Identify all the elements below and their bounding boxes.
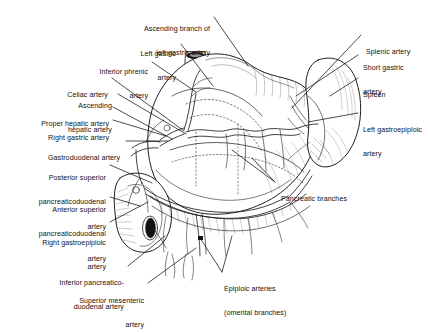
leader-pancreatic-branches-b xyxy=(252,158,275,182)
leader-short-gastric-artery xyxy=(296,55,358,96)
label-line: artery xyxy=(363,150,428,158)
label-superior-mesenteric-artery: Superior mesenteric artery xyxy=(56,280,144,333)
leader-left-gastroepiploic xyxy=(308,113,358,122)
leader-pancreatic-branches-a xyxy=(232,150,275,182)
label-line: Pancreatic branches xyxy=(281,195,373,203)
label-line: Short gastric xyxy=(363,64,425,72)
label-pancreatic-branches: Pancreatic branches xyxy=(281,178,373,219)
leader-splenic-artery xyxy=(292,35,361,108)
label-line: Anterior superior xyxy=(22,206,106,214)
leader-right-gastroepiploic xyxy=(110,202,148,222)
label-line: Superior mesenteric xyxy=(56,297,144,305)
label-line: Ascending branch of xyxy=(88,25,210,33)
leader-superior-mesenteric xyxy=(148,248,196,283)
leader-epiploic-arteries-b xyxy=(222,236,232,272)
label-line: Spleen xyxy=(363,91,419,99)
label-line: Left gastroepiploic xyxy=(363,126,428,134)
label-line: (omental branches) xyxy=(224,309,316,317)
leader-right-gastric-artery xyxy=(113,120,166,136)
label-epiploic-arteries: Epiploic arteries (omental branches) xyxy=(224,268,316,333)
label-line: Right gastroepiploic xyxy=(28,239,106,247)
label-line: Posterior superior xyxy=(22,174,106,182)
leader-epiploic-arteries-a xyxy=(200,238,222,272)
leader-spleen xyxy=(330,78,358,96)
label-line: Epiploic arteries xyxy=(224,285,316,293)
leader-ascending-branch-left-gastric xyxy=(214,17,248,66)
leader-anterior-superior-pancreaticoduodenal xyxy=(110,197,140,206)
leader-inferior-pancreaticoduodenal xyxy=(128,236,165,266)
label-left-gastroepiploic-artery: Left gastroepiploic artery xyxy=(363,109,428,175)
label-line: artery xyxy=(56,321,144,329)
